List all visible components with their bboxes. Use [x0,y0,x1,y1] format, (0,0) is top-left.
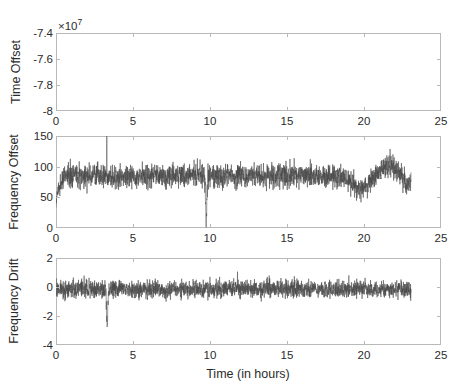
x-tick-top [133,33,134,37]
x-tick-label: 25 [435,349,448,361]
matlab-figure: ×107 Time Offset Frequency Offset Freque… [0,0,459,386]
y-tick-right [437,167,441,168]
y-tick-label: 100 [28,161,53,173]
x-tick-label: 5 [130,232,136,244]
y-tick [56,85,60,86]
x-tick [287,107,288,111]
y-tick-right [437,85,441,86]
x-tick-label: 0 [53,115,59,127]
y-tick-label: -7.8 [28,79,53,91]
y-tick-right [437,287,441,288]
frequency-offset-trace [56,136,441,228]
y-axis-title-3: Frequency Drift [7,231,21,371]
x-tick-label: 5 [130,349,136,361]
x-tick [133,107,134,111]
y-tick-label: -8 [28,105,53,117]
y-tick-label: -7.4 [28,27,53,39]
x-tick [210,341,211,345]
x-tick-label: 10 [204,115,217,127]
x-tick-top [133,258,134,262]
y-tick-label: 50 [28,191,53,203]
x-tick-label: 10 [204,232,217,244]
y-tick-label: 150 [28,130,53,142]
x-tick-label: 15 [281,349,294,361]
x-tick [210,107,211,111]
x-tick [133,224,134,228]
x-tick [287,224,288,228]
x-tick [364,224,365,228]
x-tick-label: 25 [435,232,448,244]
subplot-time-offset [56,33,441,111]
x-axis-title: Time (in hours) [206,367,290,381]
subplot-frequency-offset [56,136,441,228]
y-tick-label: -7.6 [28,53,53,65]
x-tick [364,341,365,345]
x-tick-top [287,258,288,262]
x-tick [287,341,288,345]
y-tick-label: 2 [28,252,53,264]
x-tick-label: 15 [281,115,294,127]
x-tick-label: 10 [204,349,217,361]
x-tick [133,341,134,345]
x-tick-label: 20 [358,115,371,127]
y-tick [56,59,60,60]
y-tick-right [437,316,441,317]
frequency-drift-trace [56,258,441,345]
x-tick-top [210,258,211,262]
x-tick-label: 25 [435,115,448,127]
y-tick-label: 0 [28,222,53,234]
x-tick-label: 5 [130,115,136,127]
x-tick-label: 20 [358,232,371,244]
x-tick-top [287,136,288,140]
x-tick-label: 15 [281,232,294,244]
x-tick-top [287,33,288,37]
x-tick-top [210,33,211,37]
x-tick-top [364,33,365,37]
y-tick [56,287,60,288]
x-tick [210,224,211,228]
x-tick-top [133,136,134,140]
y-tick-right [437,59,441,60]
y-tick-label: -2 [28,310,53,322]
time-offset-trace [56,33,441,111]
x-tick-label: 20 [358,349,371,361]
x-tick [364,107,365,111]
y-exponent-label-1: ×107 [58,17,82,32]
x-tick-top [210,136,211,140]
y-tick-right [437,197,441,198]
x-tick-top [364,136,365,140]
y-tick-label: 0 [28,281,53,293]
y-tick [56,167,60,168]
subplot-frequency-drift [56,258,441,345]
x-tick-label: 0 [53,349,59,361]
x-tick-label: 0 [53,232,59,244]
x-tick-top [364,258,365,262]
y-tick [56,316,60,317]
y-tick [56,197,60,198]
y-tick-label: -4 [28,339,53,351]
